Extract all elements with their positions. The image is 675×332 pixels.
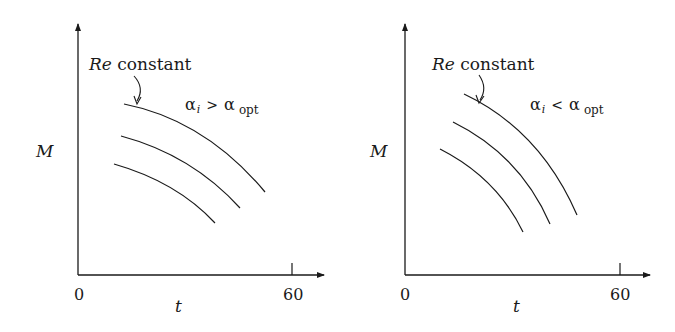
re-constant-label: Re constant bbox=[88, 54, 192, 74]
curve-lower bbox=[440, 149, 523, 232]
y-axis-label: M bbox=[369, 141, 388, 161]
y-axis-label: M bbox=[35, 141, 54, 161]
annotation-arrow bbox=[479, 75, 484, 100]
x-axis-label: t bbox=[175, 296, 182, 316]
x-axis-label: t bbox=[513, 296, 520, 316]
panel-right: M t 0 60 Re constant αi<αopt bbox=[369, 24, 650, 316]
curve-middle bbox=[453, 122, 550, 224]
x-tick-60-label: 60 bbox=[610, 285, 630, 304]
panel-left: M t 0 60 Re constant αi>αopt bbox=[35, 24, 324, 316]
re-constant-label: Re constant bbox=[431, 54, 535, 74]
x-tick-0-label: 0 bbox=[74, 285, 84, 304]
figure: M t 0 60 Re constant αi>αopt M t 0 60 Re… bbox=[0, 0, 675, 332]
x-tick-0-label: 0 bbox=[400, 285, 410, 304]
x-tick-60-label: 60 bbox=[283, 285, 303, 304]
curve-upper bbox=[124, 104, 265, 192]
condition-label: αi>αopt bbox=[185, 95, 259, 117]
condition-label: αi<αopt bbox=[530, 95, 604, 117]
